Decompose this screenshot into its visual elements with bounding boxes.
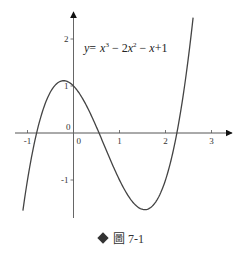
x-tick-label: 2 — [163, 136, 168, 146]
caption-text: 圖 7-1 — [113, 232, 144, 246]
x-tick-label: 1 — [117, 136, 122, 146]
x-tick-label: -1 — [24, 136, 32, 146]
function-graph: -112321-100 y=x3 − 2x2 − x+1 — [0, 0, 243, 258]
figure-caption: 圖 7-1 — [0, 229, 243, 247]
y-tick-label: 2 — [64, 34, 69, 44]
diamond-icon — [97, 232, 108, 243]
origin-label-x: 0 — [77, 136, 82, 146]
equation-label: y=x3 − 2x2 − x+1 — [83, 41, 167, 55]
origin-label-y: 0 — [66, 122, 71, 132]
axis-ticks: -112321-100 — [24, 34, 215, 185]
x-tick-label: 3 — [209, 136, 214, 146]
y-tick-label: -1 — [61, 175, 69, 185]
y-tick-label: 1 — [64, 81, 69, 91]
